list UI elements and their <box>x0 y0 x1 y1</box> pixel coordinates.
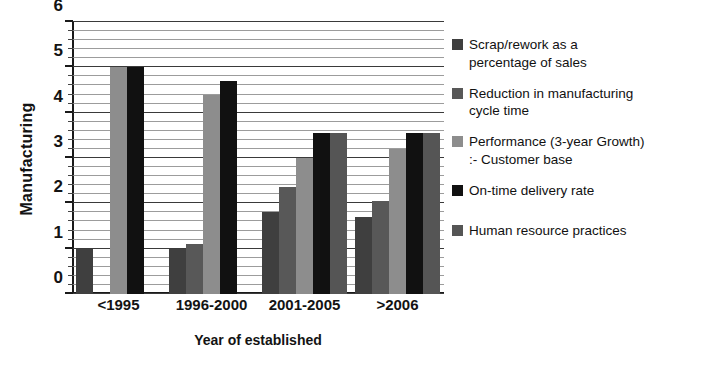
x-axis-tick-labels: <19951996-20002001-2005>2006 <box>72 296 444 313</box>
bar <box>423 133 440 294</box>
bar <box>186 244 203 294</box>
bar <box>279 187 296 294</box>
legend-item-label: Reduction in manufacturingcycle time <box>469 85 633 121</box>
legend-item[interactable]: On-time delivery rate <box>452 182 714 200</box>
y-axis-tick-label: 0 <box>54 269 63 286</box>
bar <box>76 249 93 294</box>
y-axis-tick-label: 4 <box>54 87 63 104</box>
y-axis-tick-label: 2 <box>54 178 63 195</box>
bar-group <box>165 22 258 294</box>
legend-item[interactable]: Performance (3-year Growth):- Customer b… <box>452 133 714 169</box>
x-axis-tick-label: 2001-2005 <box>258 296 351 313</box>
bar <box>372 201 389 294</box>
bar-group <box>258 22 351 294</box>
bar <box>406 133 423 294</box>
bar-chart-figure: Manufacturing 0123456 <19951996-20002001… <box>0 0 719 373</box>
bar <box>313 133 330 294</box>
legend-swatch-icon <box>452 225 463 236</box>
bar-groups <box>72 22 444 294</box>
x-axis-tick-label: 1996-2000 <box>165 296 258 313</box>
y-axis-title: Manufacturing <box>18 59 36 259</box>
plot-area: 0123456 <box>72 22 444 294</box>
bar <box>127 67 144 294</box>
legend-item-label: Performance (3-year Growth):- Customer b… <box>469 133 645 169</box>
legend-item-label: Human resource practices <box>469 222 627 240</box>
legend-item[interactable]: Scrap/rework as apercentage of sales <box>452 36 714 72</box>
chart-legend: Scrap/rework as apercentage of salesRedu… <box>452 36 714 253</box>
bar <box>203 95 220 294</box>
legend-item[interactable]: Human resource practices <box>452 222 714 240</box>
bar <box>110 67 127 294</box>
bar <box>355 217 372 294</box>
bar-group <box>351 22 444 294</box>
bar <box>330 133 347 294</box>
y-axis-tick-label: 5 <box>54 42 63 59</box>
bar <box>389 149 406 294</box>
legend-swatch-icon <box>452 88 463 99</box>
legend-item-label: Scrap/rework as apercentage of sales <box>469 36 587 72</box>
y-axis-tick-label: 6 <box>54 0 63 14</box>
x-axis-title: Year of established <box>72 332 444 348</box>
legend-item-label: On-time delivery rate <box>469 182 594 200</box>
legend-item[interactable]: Reduction in manufacturingcycle time <box>452 85 714 121</box>
y-axis-tick-label: 3 <box>54 133 63 150</box>
bar <box>220 81 237 294</box>
legend-swatch-icon <box>452 136 463 147</box>
y-axis-tick-label: 1 <box>54 223 63 240</box>
legend-swatch-icon <box>452 185 463 196</box>
bar <box>262 212 279 294</box>
bar-group <box>72 22 165 294</box>
x-axis-tick-label: >2006 <box>351 296 444 313</box>
bar <box>296 158 313 294</box>
legend-swatch-icon <box>452 39 463 50</box>
x-axis-tick-label: <1995 <box>72 296 165 313</box>
bar <box>169 249 186 294</box>
